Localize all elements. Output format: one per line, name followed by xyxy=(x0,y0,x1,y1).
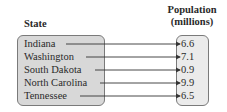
mapping-arrows xyxy=(0,0,227,112)
